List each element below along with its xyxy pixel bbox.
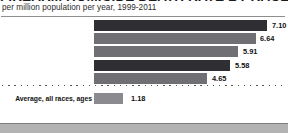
chart-row: African American age 25-34 5.58 (0, 59, 288, 72)
bar-track: 1.18 (94, 92, 288, 105)
bar-value-label: 7.10 (272, 19, 286, 32)
bar-value-label: 5.58 (235, 59, 249, 72)
bar-value-label: 6.64 (260, 32, 274, 45)
chart-page: FIREARM HOMICIDE DEATH RATE BY RACE AND … (0, 0, 288, 133)
bar (94, 73, 207, 84)
average-separator (2, 85, 286, 86)
bar-value-label: 5.91 (243, 45, 257, 58)
bar (94, 46, 238, 57)
bar-track: 5.58 (94, 59, 288, 72)
average-row: Average, all races, ages 1.18 (0, 92, 288, 105)
chart-row: African American age 20-24 7.10 (0, 19, 288, 32)
average-bar (94, 93, 123, 104)
bar (94, 33, 256, 44)
bar (94, 60, 230, 71)
bar-value-label: 4.65 (212, 72, 226, 85)
bar-track: 5.91 (94, 45, 288, 58)
average-value-label: 1.18 (131, 92, 145, 105)
footer-band (0, 124, 288, 133)
bar-track: 4.65 (94, 72, 288, 85)
chart-row: Native American age 25-34 6.64 (0, 32, 288, 45)
bar-track: 7.10 (94, 19, 288, 32)
chart-subtitle: per million population per year, 1999-20… (2, 3, 156, 12)
chart-row: Native American age 35-44 5.91 (0, 45, 288, 58)
bar (94, 20, 267, 31)
chart-row: Native American age 20-24 4.65 (0, 72, 288, 85)
header-divider (1, 16, 285, 17)
average-label: Average, all races, ages (0, 92, 92, 105)
bar-track: 6.64 (94, 32, 288, 45)
